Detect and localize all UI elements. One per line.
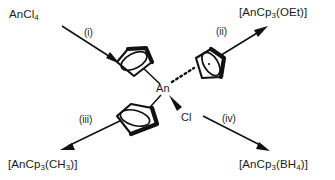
cyclopentadienyl-ring-upper-right	[196, 49, 224, 79]
reaction-scheme-canvas: AnCl4 [AnCp3(OEt)] [AnCp3(CH3)] [AnCp3(B…	[0, 0, 335, 180]
reactant-label-ancl4: AnCl4	[9, 9, 39, 21]
condition-label-iv: (iv)	[222, 114, 236, 124]
metal-center-label-an: An	[156, 83, 170, 94]
condition-label-i: (i)	[84, 28, 93, 38]
condition-label-iii: (iii)	[79, 115, 92, 125]
condition-label-ii: (ii)	[216, 27, 227, 37]
bond-an-cl-wedge	[169, 95, 182, 111]
reaction-arrow-iv	[203, 116, 270, 151]
bond-an-cp-upper-right	[172, 68, 194, 82]
product-label-ancp3-bh4: [AnCp3(BH4)]	[239, 159, 308, 171]
cyclopentadienyl-ring-lower	[117, 104, 157, 134]
reaction-arrow-iii	[60, 117, 128, 150]
product-label-ancp3-ch3: [AnCp3(CH3)]	[8, 159, 78, 171]
chloride-ligand-label-cl: Cl	[181, 112, 192, 123]
product-label-ancp3-oet: [AnCp3(OEt)]	[239, 7, 307, 19]
